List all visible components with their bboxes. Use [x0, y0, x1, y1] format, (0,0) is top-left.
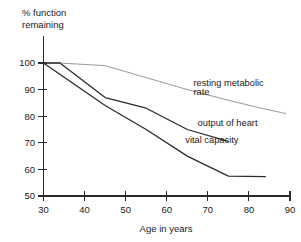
x-axis-ticks: 30405060708090: [38, 191, 295, 215]
y-tick-label: 60: [24, 164, 35, 175]
x-tick-label: 30: [38, 204, 49, 215]
x-tick-label: 90: [285, 204, 296, 215]
y-tick-label: 70: [24, 137, 35, 148]
series-label: rate: [193, 87, 209, 97]
axes: [44, 36, 291, 196]
y-axis-title-line1: % function: [22, 7, 66, 18]
chart-container: % function remaining 5060708090100 30405…: [0, 0, 301, 242]
series-label: resting metabolic: [193, 78, 264, 88]
x-tick-label: 80: [244, 204, 255, 215]
series-label: output of heart: [198, 118, 258, 128]
x-axis-title: Age in years: [140, 223, 193, 234]
x-tick-label: 50: [120, 204, 131, 215]
series-annotations: resting metabolicrateoutput of heartvita…: [185, 78, 264, 145]
x-tick-label: 70: [203, 204, 214, 215]
x-tick-label: 40: [79, 204, 90, 215]
line-chart: % function remaining 5060708090100 30405…: [0, 0, 301, 242]
y-axis-title-line2: remaining: [22, 19, 64, 30]
y-tick-label: 80: [24, 111, 35, 122]
y-tick-label: 90: [24, 84, 35, 95]
x-tick-label: 60: [161, 204, 172, 215]
y-tick-label: 100: [19, 57, 35, 68]
series-label: vital capacity: [185, 135, 239, 145]
y-tick-label: 50: [24, 190, 35, 201]
